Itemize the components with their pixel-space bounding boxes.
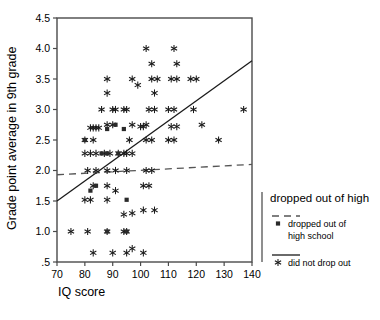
data-point-square bbox=[94, 184, 98, 188]
data-point-square bbox=[83, 138, 87, 142]
x-axis-label: IQ score bbox=[58, 285, 105, 299]
legend-entry-label: dropped out of bbox=[288, 219, 347, 229]
data-points bbox=[68, 45, 247, 257]
data-point-square bbox=[88, 189, 92, 193]
x-tick-label: 110 bbox=[160, 268, 177, 280]
y-tick-label: 1.0 bbox=[35, 225, 50, 237]
scatter-plot-svg: Grade point average in 9th grade IQ scor… bbox=[0, 0, 380, 320]
data-point-square bbox=[99, 151, 103, 155]
y-tick-label: 4.5 bbox=[35, 12, 50, 24]
y-tick-label: 2.0 bbox=[35, 164, 50, 176]
data-point-square bbox=[276, 221, 280, 225]
legend-entry-label: high school bbox=[288, 231, 334, 241]
data-point-square bbox=[105, 151, 109, 155]
y-tick-label: 4.0 bbox=[35, 42, 50, 54]
data-point-square bbox=[105, 229, 109, 233]
x-tick-label: 140 bbox=[243, 268, 261, 280]
y-tick-label: 2.5 bbox=[35, 134, 50, 146]
chart-legend: dropped out of high dropped out ofhigh s… bbox=[262, 192, 369, 268]
x-tick-label: 90 bbox=[107, 268, 119, 280]
y-tick-label: .5 bbox=[41, 256, 50, 268]
x-tick-label: 120 bbox=[188, 268, 206, 280]
x-axis-ticks: 708090100110120130140 bbox=[51, 262, 261, 280]
y-axis-ticks: 4.54.03.53.02.52.01.51.0.5 bbox=[35, 12, 57, 268]
legend-title: dropped out of high bbox=[270, 192, 369, 204]
x-tick-label: 80 bbox=[79, 268, 91, 280]
data-point-square bbox=[122, 127, 126, 131]
data-point-square bbox=[125, 229, 129, 233]
chart-figure: Grade point average in 9th grade IQ scor… bbox=[0, 0, 380, 320]
x-tick-label: 70 bbox=[51, 268, 63, 280]
x-tick-label: 100 bbox=[132, 268, 150, 280]
data-point-square bbox=[116, 151, 120, 155]
data-point-square bbox=[125, 198, 129, 202]
trend-lines bbox=[57, 61, 252, 201]
trend-line-solid bbox=[57, 61, 252, 201]
x-tick-label: 130 bbox=[215, 268, 233, 280]
y-tick-label: 3.0 bbox=[35, 103, 50, 115]
data-point-square bbox=[105, 127, 109, 131]
data-point-square bbox=[113, 123, 117, 127]
y-tick-label: 3.5 bbox=[35, 73, 50, 85]
y-axis-label: Grade point average in 9th grade bbox=[5, 46, 19, 230]
y-tick-label: 1.5 bbox=[35, 195, 50, 207]
legend-entry-label: did not drop out bbox=[288, 258, 351, 268]
